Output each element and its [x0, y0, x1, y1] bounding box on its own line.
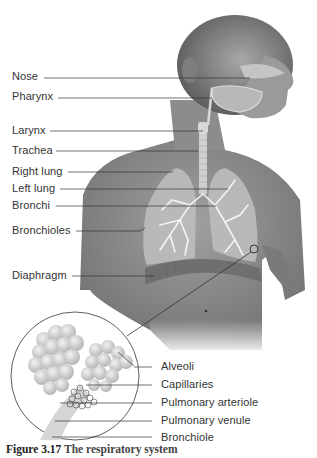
trachea	[198, 122, 208, 194]
label-capillaries: Capillaries	[161, 378, 213, 390]
label-bronchioles: Bronchioles	[12, 224, 71, 236]
navel	[205, 310, 208, 313]
label-nose: Nose	[12, 70, 38, 82]
label-bronchiole: Bronchiole	[161, 431, 214, 443]
label-pulmonary-arteriole: Pulmonary arteriole	[161, 396, 258, 408]
figure-caption: Figure 3.17 The respiratory system	[6, 443, 178, 455]
label-diaphragm: Diaphragm	[12, 269, 67, 281]
label-trachea: Trachea	[12, 144, 53, 156]
label-pharynx: Pharynx	[12, 90, 53, 102]
label-right-lung: Right lung	[12, 165, 63, 177]
label-alveoli: Alveoli	[161, 360, 194, 372]
caption-number: Figure 3.17	[6, 443, 61, 455]
label-larynx: Larynx	[12, 124, 46, 136]
label-pulmonary-venule: Pulmonary venule	[161, 414, 251, 426]
label-left-lung: Left lung	[12, 182, 55, 194]
caption-text: The respiratory system	[64, 443, 178, 455]
label-bronchi: Bronchi	[12, 199, 50, 211]
